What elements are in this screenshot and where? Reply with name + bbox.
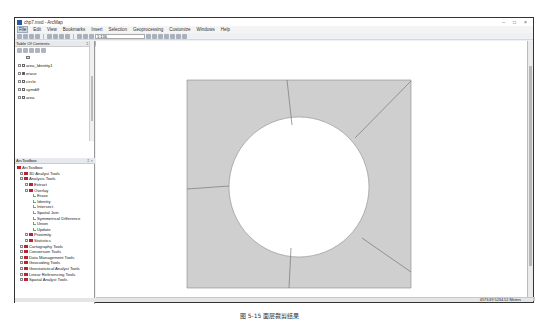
- print-icon[interactable]: [35, 34, 40, 39]
- toolbox-icon: [24, 177, 28, 180]
- toc-scrollbar[interactable]: [89, 41, 94, 141]
- expand-icon[interactable]: [20, 278, 23, 281]
- list-by-drawing-order-icon[interactable]: [17, 48, 22, 53]
- open-icon[interactable]: [23, 34, 28, 39]
- redo-icon[interactable]: [83, 34, 88, 39]
- tool-icon: [33, 200, 36, 203]
- layer-name[interactable]: symdiff: [26, 87, 39, 92]
- tool-icon: [33, 228, 36, 231]
- collapse-icon[interactable]: [18, 96, 21, 99]
- standard-toolbar: 1:136: [15, 33, 533, 40]
- layer-item[interactable]: symdiff: [18, 85, 94, 93]
- layer-item[interactable]: circle: [18, 77, 94, 85]
- python-icon[interactable]: [176, 34, 181, 39]
- add-data-icon[interactable]: [89, 34, 94, 39]
- arcmap-window: chp7.mxd - ArcMap – □ × File Edit View B…: [14, 17, 534, 303]
- save-icon[interactable]: [29, 34, 34, 39]
- cut-icon[interactable]: [47, 34, 52, 39]
- expand-icon[interactable]: [20, 172, 23, 175]
- menu-bookmarks[interactable]: Bookmarks: [62, 27, 87, 32]
- window-title: chp7.mxd - ArcMap: [24, 20, 63, 25]
- expand-icon[interactable]: [20, 261, 23, 264]
- menu-selection[interactable]: Selection: [108, 27, 129, 32]
- menu-insert[interactable]: Insert: [90, 27, 103, 32]
- arcmap-icon: [17, 20, 22, 25]
- collapse-icon[interactable]: [20, 177, 23, 180]
- menu-windows[interactable]: Windows: [196, 27, 216, 32]
- arctoolbox-pane: ArcToolbox ‡ × ArcToolbox 3D Analyst Too…: [15, 158, 95, 304]
- layer-visibility-checkbox[interactable]: [22, 88, 25, 91]
- menu-customize[interactable]: Customize: [168, 27, 191, 32]
- menu-bar: File Edit View Bookmarks Insert Selectio…: [15, 26, 533, 33]
- layer-name[interactable]: area: [26, 95, 34, 100]
- layer-name[interactable]: area_Identity1: [26, 63, 53, 68]
- toolbox-icon: [24, 245, 28, 248]
- expand-icon[interactable]: [25, 239, 28, 242]
- menu-geoprocessing[interactable]: Geoprocessing: [132, 27, 164, 32]
- layer-visibility-checkbox[interactable]: [22, 64, 25, 67]
- layer-visibility-checkbox[interactable]: [22, 80, 25, 83]
- layer-swatch-row: [18, 53, 94, 61]
- left-dock-panel: Table Of Contents ‡ × area_Identity1: [15, 41, 95, 304]
- undo-icon[interactable]: [77, 34, 82, 39]
- search-icon[interactable]: [164, 34, 169, 39]
- tool-icon: [33, 211, 36, 214]
- layer-name[interactable]: erase: [26, 71, 36, 76]
- expand-icon[interactable]: [20, 267, 23, 270]
- menu-file[interactable]: File: [17, 26, 28, 33]
- layer-item[interactable]: area: [18, 93, 94, 101]
- toolbox-icon: [17, 166, 21, 169]
- close-button[interactable]: ×: [524, 19, 527, 25]
- toc-title: Table Of Contents: [16, 41, 50, 46]
- menu-help[interactable]: Help: [220, 27, 231, 32]
- toolbox-icon: [24, 278, 28, 281]
- collapse-icon[interactable]: [18, 64, 21, 67]
- layer-symbol[interactable]: [26, 56, 30, 59]
- collapse-icon[interactable]: [25, 189, 28, 192]
- collapse-icon[interactable]: [18, 72, 21, 75]
- tool-icon: [33, 222, 36, 225]
- expand-icon[interactable]: [20, 245, 23, 248]
- toolset-icon: [29, 183, 33, 186]
- layer-item[interactable]: erase: [18, 69, 94, 77]
- layer-item[interactable]: area_Identity1: [18, 61, 94, 69]
- toolbox-pin-close[interactable]: ‡ ×: [87, 158, 95, 163]
- menu-edit[interactable]: Edit: [32, 27, 42, 32]
- list-by-selection-icon[interactable]: [35, 48, 40, 53]
- tool-icon: [33, 194, 36, 197]
- list-by-visibility-icon[interactable]: [29, 48, 34, 53]
- layer-visibility-checkbox[interactable]: [22, 72, 25, 75]
- layer-visibility-checkbox[interactable]: [22, 96, 25, 99]
- copy-icon[interactable]: [53, 34, 58, 39]
- toolbox-icon: [24, 256, 28, 259]
- editor-icon[interactable]: [146, 34, 151, 39]
- new-icon[interactable]: [17, 34, 22, 39]
- collapse-icon[interactable]: [18, 88, 21, 91]
- toc-options-icon[interactable]: [41, 48, 46, 53]
- layer-name[interactable]: circle: [26, 79, 36, 84]
- map-display[interactable]: [96, 41, 528, 297]
- minimize-button[interactable]: –: [502, 19, 505, 25]
- maximize-button[interactable]: □: [513, 19, 516, 25]
- map-scale-input[interactable]: 1:136: [95, 34, 145, 39]
- window-controls: – □ ×: [502, 19, 533, 25]
- collapse-icon[interactable]: [18, 80, 21, 83]
- expand-icon[interactable]: [25, 233, 28, 236]
- expand-icon[interactable]: [20, 273, 23, 276]
- toolset-icon: [29, 233, 33, 236]
- toc-icon[interactable]: [152, 34, 157, 39]
- model-builder-icon[interactable]: [182, 34, 187, 39]
- catalog-icon[interactable]: [158, 34, 163, 39]
- expand-icon[interactable]: [20, 250, 23, 253]
- toolbox-icon: [24, 172, 28, 175]
- list-by-source-icon[interactable]: [23, 48, 28, 53]
- toolbox-item[interactable]: Spatial Analyst Tools: [17, 277, 95, 283]
- erase-result-polygon[interactable]: [96, 41, 528, 297]
- arctoolbox-icon[interactable]: [170, 34, 175, 39]
- expand-icon[interactable]: [20, 256, 23, 259]
- delete-icon[interactable]: [65, 34, 70, 39]
- paste-icon[interactable]: [59, 34, 64, 39]
- menu-view[interactable]: View: [46, 27, 58, 32]
- expand-icon[interactable]: [25, 183, 28, 186]
- map-vertical-scrollbar[interactable]: [527, 41, 533, 297]
